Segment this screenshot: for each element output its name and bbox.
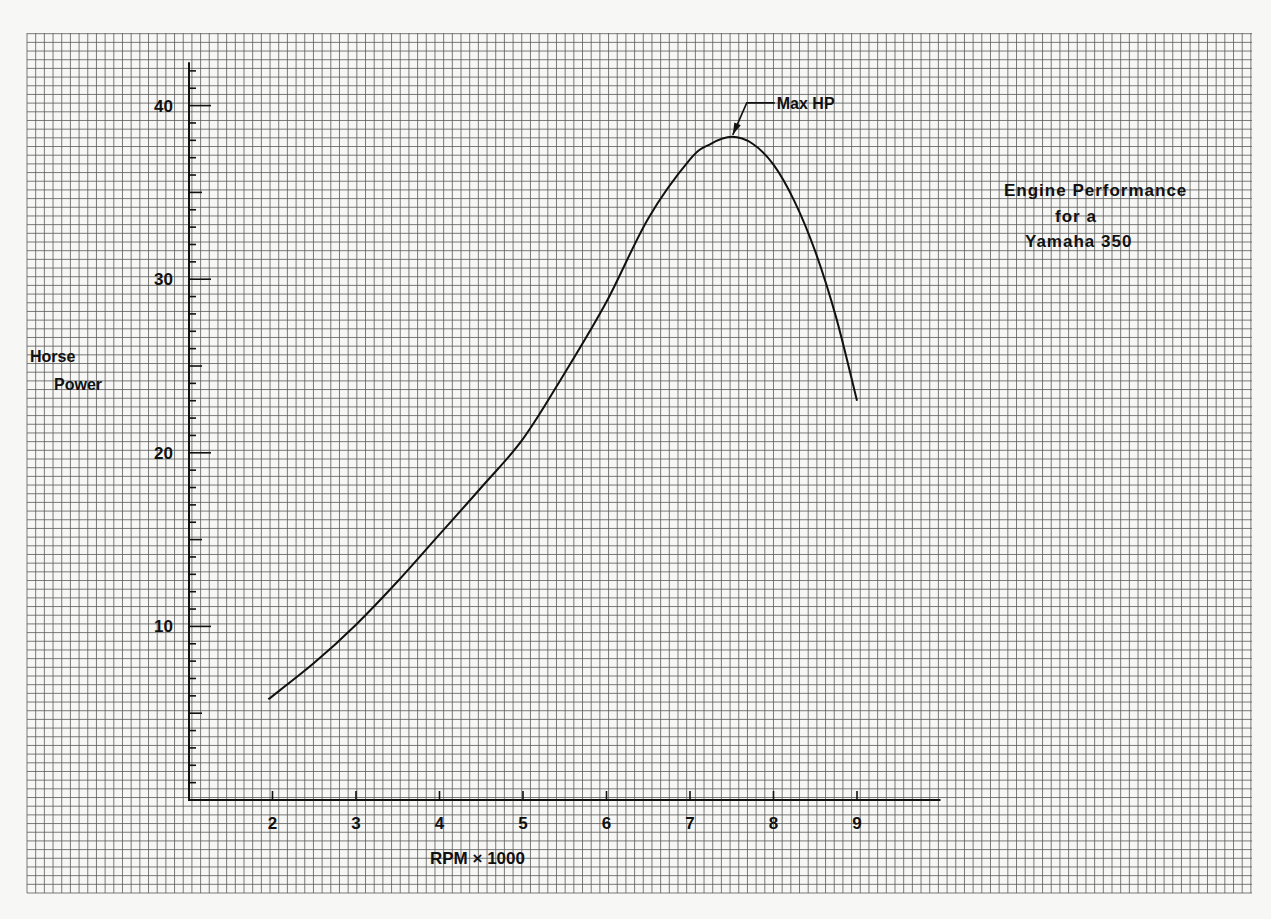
x-tick-label: 6 (602, 814, 611, 833)
x-tick-label: 2 (268, 814, 277, 833)
x-tick-label: 8 (769, 814, 778, 833)
chart-title-line-3: Yamaha 350 (1025, 232, 1132, 251)
y-tick-label: 20 (154, 444, 173, 463)
y-axis-label-line-2: Power (54, 376, 102, 393)
x-tick-label: 5 (518, 814, 527, 833)
max-hp-label: Max HP (777, 95, 835, 112)
x-axis-label: RPM × 1000 (430, 849, 525, 868)
y-tick-label: 40 (154, 97, 173, 116)
y-axis-label-line-1: Horse (30, 348, 75, 365)
x-tick-label: 3 (351, 814, 360, 833)
x-tick-label: 4 (435, 814, 445, 833)
y-tick-label: 30 (154, 270, 173, 289)
chart-title-line-2: for a (1055, 207, 1097, 226)
chart-title-line-1: Engine Performance (1004, 181, 1187, 200)
graph-paper-grid (27, 33, 1252, 893)
y-tick-label: 10 (154, 617, 173, 636)
engine-performance-chart: 10203040 23456789 Horse Power RPM × 1000… (0, 0, 1271, 919)
x-tick-label: 7 (685, 814, 694, 833)
x-tick-label: 9 (852, 814, 861, 833)
max-hp-arrowhead (733, 122, 741, 134)
